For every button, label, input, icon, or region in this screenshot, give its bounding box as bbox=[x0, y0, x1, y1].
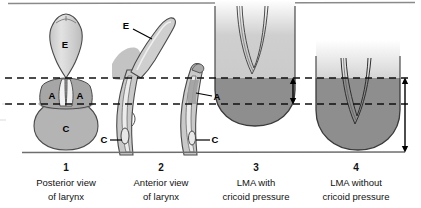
panel-3-lma-with-cricoid-pressure bbox=[215, 0, 295, 126]
label-E-panel2: E bbox=[123, 20, 129, 31]
cricoid-ring-right-panel2 bbox=[189, 131, 196, 145]
caption-panel-1: 1 Posterior view of larynx bbox=[36, 162, 96, 202]
caption-number-2: 2 bbox=[158, 162, 164, 173]
label-A-panel2: A bbox=[214, 91, 221, 102]
larynx-lma-comparison-figure: E A A C E A C C 1 Posterior view of lary… bbox=[0, 0, 421, 208]
long-double-arrow bbox=[402, 78, 408, 153]
caption-number-1: 1 bbox=[63, 162, 69, 173]
label-C-panel1: C bbox=[63, 123, 70, 134]
panel-4-lma-without-cricoid-pressure bbox=[316, 40, 400, 150]
caption-line1-panel1: Posterior view bbox=[36, 177, 96, 188]
cricoid-ring-left-panel2 bbox=[121, 128, 129, 144]
caption-line2-panel4: cricoid pressure bbox=[322, 191, 389, 202]
caption-panel-2: 2 Anterior view of larynx bbox=[134, 162, 189, 202]
caption-line1-panel4: LMA without bbox=[330, 177, 382, 188]
label-E-panel1: E bbox=[62, 39, 68, 50]
top-rule bbox=[8, 3, 415, 4]
left-edge-partial-mark bbox=[0, 104, 6, 120]
caption-line2-panel3: cricoid pressure bbox=[222, 191, 289, 202]
caption-number-4: 4 bbox=[353, 162, 359, 173]
caption-panel-4: 4 LMA without cricoid pressure bbox=[322, 162, 389, 202]
caption-line2-panel1: of larynx bbox=[48, 191, 84, 202]
label-C-left-panel2: C bbox=[101, 134, 108, 145]
caption-line1-panel2: Anterior view bbox=[134, 177, 189, 188]
panel-2-anterior-larynx bbox=[110, 18, 212, 155]
label-A-left-panel1: A bbox=[49, 90, 56, 101]
caption-panel-3: 3 LMA with cricoid pressure bbox=[222, 162, 289, 202]
label-C-right-panel2: C bbox=[212, 134, 219, 145]
leader-line-E-panel2 bbox=[133, 29, 152, 39]
caption-number-3: 3 bbox=[253, 162, 259, 173]
caption-line2-panel2: of larynx bbox=[143, 191, 179, 202]
label-A-right-panel1: A bbox=[77, 90, 84, 101]
baseline-rule bbox=[22, 152, 405, 153]
caption-line1-panel3: LMA with bbox=[237, 177, 276, 188]
